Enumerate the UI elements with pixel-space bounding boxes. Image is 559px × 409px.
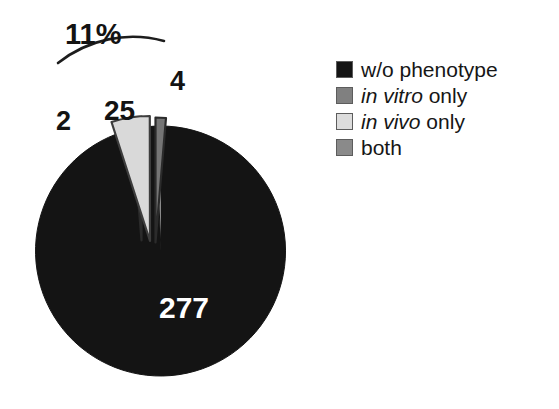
legend-swatch-icon bbox=[336, 87, 353, 104]
legend-swatch-icon bbox=[336, 113, 353, 130]
percent-callout-label: 11% bbox=[65, 20, 121, 49]
legend-label-in-vivo: in vivo only bbox=[361, 111, 465, 132]
legend-swatch-icon bbox=[336, 139, 353, 156]
legend-label-wo-phenotype: w/o phenotype bbox=[361, 59, 498, 80]
legend-label-both: both bbox=[361, 137, 402, 158]
pie-chart-figure: 277 2 25 4 11% w/o phenotype in vitro on… bbox=[0, 0, 559, 409]
legend-item-both: both bbox=[336, 134, 551, 160]
slice-value-both: 4 bbox=[170, 68, 185, 95]
legend-item-in-vivo: in vivo only bbox=[336, 108, 551, 134]
legend-label-text: both bbox=[361, 136, 402, 159]
legend-item-wo-phenotype: w/o phenotype bbox=[336, 56, 551, 82]
slice-value-in-vivo: 25 bbox=[104, 97, 135, 125]
legend-label-tail: only bbox=[421, 110, 465, 133]
legend-item-in-vitro: in vitro only bbox=[336, 82, 551, 108]
legend-label-text: w/o phenotype bbox=[361, 58, 498, 81]
legend-label-in-vitro: in vitro only bbox=[361, 85, 467, 106]
legend-label-tail: only bbox=[423, 84, 467, 107]
legend-swatch-icon bbox=[336, 61, 353, 78]
slice-value-wo-phenotype: 277 bbox=[159, 293, 209, 323]
legend-label-italic: in vivo bbox=[361, 110, 421, 133]
legend: w/o phenotype in vitro only in vivo only… bbox=[336, 56, 551, 160]
legend-label-italic: in vitro bbox=[361, 84, 423, 107]
slice-value-in-vitro: 2 bbox=[56, 108, 71, 135]
